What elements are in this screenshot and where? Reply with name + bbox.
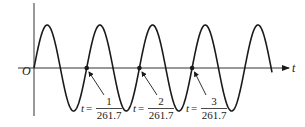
svg-text:t=: t= — [81, 102, 92, 114]
label-2-numerator: 2 — [158, 95, 164, 107]
svg-text:t=: t= — [133, 102, 144, 114]
time-label-2: t= 2 261.7 — [133, 95, 174, 121]
pointer-arrow-1 — [89, 72, 104, 95]
svg-text:t=: t= — [186, 102, 197, 114]
crossing-dot-1 — [84, 66, 89, 71]
label-2-denominator: 261.7 — [149, 109, 174, 121]
time-label-3: t= 3 261.7 — [186, 95, 227, 121]
pointer-arrow-2 — [142, 72, 157, 95]
label-1-denominator: 261.7 — [97, 109, 122, 121]
origin-label: O — [22, 64, 31, 78]
label-3-denominator: 261.7 — [202, 109, 227, 121]
label-3-numerator: 3 — [211, 95, 217, 107]
label-1-numerator: 1 — [106, 95, 112, 107]
crossing-dot-3 — [190, 66, 195, 71]
time-label-1: t= 1 261.7 — [81, 95, 122, 121]
pointer-arrow-3 — [195, 72, 207, 95]
sine-wave-diagram: O t t= 1 261.7 t= 2 261.7 t= 3 261.7 — [0, 0, 305, 127]
time-axis-label: t — [292, 61, 296, 75]
crossing-dot-2 — [137, 66, 142, 71]
